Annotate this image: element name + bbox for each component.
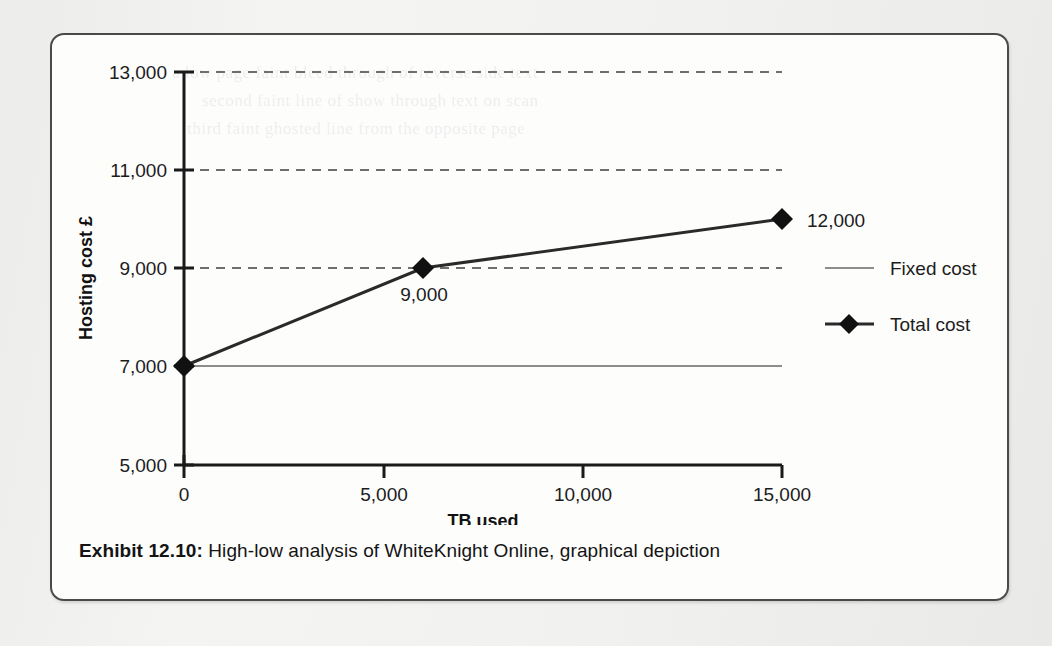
y-axis xyxy=(174,72,194,465)
exhibit-figure-box: a low page faint bleed through of revers… xyxy=(50,33,1009,601)
x-tick-label-15000: 15,000 xyxy=(753,484,811,505)
data-point-marker-2 xyxy=(771,208,793,230)
chart-legend: Fixed cost Total cost xyxy=(825,258,977,335)
x-tick-labels: 0 5,000 10,000 15,000 xyxy=(179,484,811,505)
y-tick-label-13000: 13,000 xyxy=(109,62,167,83)
data-point-marker-0 xyxy=(173,355,195,377)
y-tick-label-7000: 7,000 xyxy=(119,356,167,377)
y-tick-label-9000: 9,000 xyxy=(119,258,167,279)
caption-exhibit-number: Exhibit 12.10: xyxy=(79,540,203,561)
scanned-page-background: a low page faint bleed through of revers… xyxy=(0,0,1052,646)
gridlines xyxy=(184,72,782,268)
x-tick-label-0: 0 xyxy=(179,484,190,505)
data-point-label-9000: 9,000 xyxy=(400,284,448,305)
legend-label-fixed-cost: Fixed cost xyxy=(890,258,977,279)
y-axis-title: Hosting cost £ xyxy=(76,216,96,340)
series-total-cost-markers xyxy=(173,208,793,377)
x-tick-label-10000: 10,000 xyxy=(554,484,612,505)
data-point-label-12000: 12,000 xyxy=(807,210,865,231)
data-point-marker-1 xyxy=(412,257,434,279)
line-chart: 13,000 11,000 9,000 7,000 5,000 Hosting … xyxy=(52,35,1007,525)
caption-description: High-low analysis of WhiteKnight Online,… xyxy=(208,540,720,561)
x-axis-title: TB used xyxy=(447,511,518,525)
y-tick-labels: 13,000 11,000 9,000 7,000 5,000 xyxy=(109,62,167,476)
x-tick-label-5000: 5,000 xyxy=(360,484,408,505)
legend-label-total-cost: Total cost xyxy=(890,314,971,335)
y-tick-label-5000: 5,000 xyxy=(119,455,167,476)
figure-caption: Exhibit 12.10: High-low analysis of Whit… xyxy=(79,540,979,562)
x-axis xyxy=(184,455,782,478)
series-total-cost-line xyxy=(184,219,782,366)
y-tick-label-11000: 11,000 xyxy=(110,160,167,181)
legend-marker-total-cost xyxy=(839,314,859,334)
